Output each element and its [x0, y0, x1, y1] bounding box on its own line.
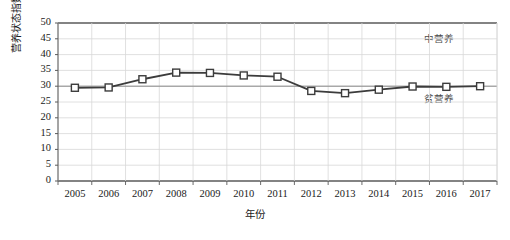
data-point-marker	[173, 69, 180, 76]
data-point-marker	[308, 87, 315, 94]
nutrition-index-chart: 营养状态指数 年份 051015202530354045502005200620…	[0, 0, 510, 240]
data-point-marker	[375, 86, 382, 93]
data-point-marker	[443, 83, 450, 90]
data-point-marker	[274, 73, 281, 80]
data-point-marker	[477, 83, 484, 90]
data-series	[71, 69, 483, 97]
data-point-marker	[342, 90, 349, 97]
data-point-marker	[139, 76, 146, 83]
plot-area	[0, 0, 510, 240]
gridlines	[58, 23, 497, 181]
data-point-marker	[240, 72, 247, 79]
data-point-marker	[71, 84, 78, 91]
plot-frame	[55, 23, 497, 185]
data-point-marker	[105, 84, 112, 91]
data-point-marker	[409, 83, 416, 90]
data-point-marker	[206, 69, 213, 76]
